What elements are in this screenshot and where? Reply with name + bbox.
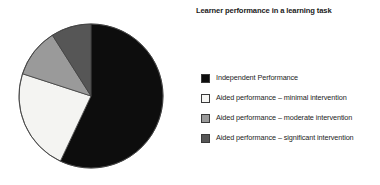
legend-label-independent-performance: Independent Performance [216, 74, 298, 81]
pie-slice-group [19, 24, 163, 168]
legend-swatch-significant-intervention [201, 134, 210, 143]
legend-label-significant-intervention: Aided performance – significant interven… [216, 134, 354, 141]
legend-swatch-moderate-intervention [201, 114, 210, 123]
legend-item-moderate-intervention[interactable]: Aided performance – moderate interventio… [201, 108, 379, 128]
legend-item-independent-performance[interactable]: Independent Performance [201, 68, 379, 88]
legend-label-moderate-intervention: Aided performance – moderate interventio… [216, 114, 352, 121]
chart-title: Learner performance in a learning task [196, 7, 376, 15]
legend-item-minimal-intervention[interactable]: Aided performance – minimal intervention [201, 88, 379, 108]
chart-legend: Independent Performance Aided performanc… [201, 68, 379, 148]
legend-swatch-minimal-intervention [201, 94, 210, 103]
legend-label-minimal-intervention: Aided performance – minimal intervention [216, 94, 347, 101]
legend-item-significant-intervention[interactable]: Aided performance – significant interven… [201, 128, 379, 148]
pie-chart-figure: Learner performance in a learning task I… [0, 0, 380, 185]
pie-chart-plot-area [17, 11, 167, 183]
legend-swatch-independent-performance [201, 74, 210, 83]
pie-chart-svg [17, 11, 167, 183]
